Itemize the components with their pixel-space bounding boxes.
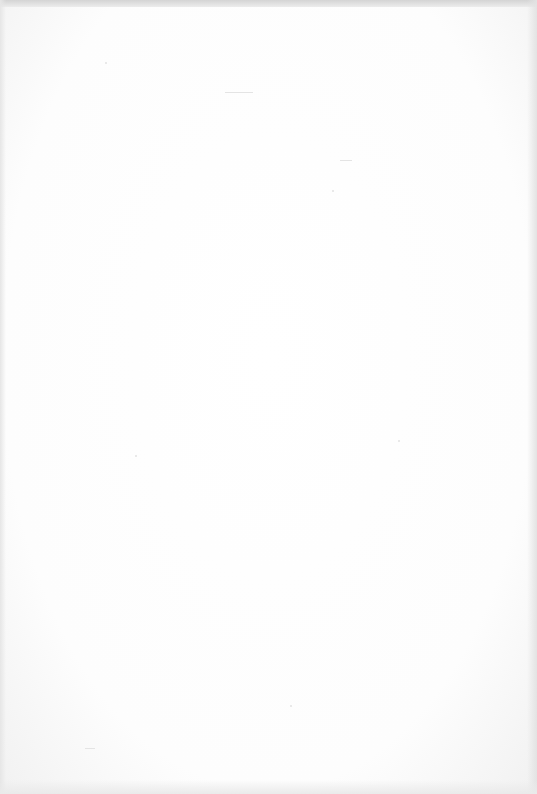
scan-smudge bbox=[340, 160, 352, 161]
header-mark bbox=[302, 20, 342, 32]
scan-bottom-edge bbox=[0, 780, 537, 794]
scan-speck bbox=[290, 705, 292, 707]
scan-speck bbox=[332, 190, 334, 192]
scan-speck bbox=[135, 455, 137, 457]
scan-smudge bbox=[225, 92, 253, 93]
scan-left-edge bbox=[0, 0, 6, 794]
scan-speck bbox=[105, 62, 107, 64]
scan-right-edge bbox=[527, 0, 537, 794]
scan-smudge bbox=[85, 748, 95, 749]
scan-speck bbox=[398, 440, 400, 442]
scan-top-edge bbox=[0, 0, 537, 7]
scanned-page bbox=[0, 0, 537, 794]
